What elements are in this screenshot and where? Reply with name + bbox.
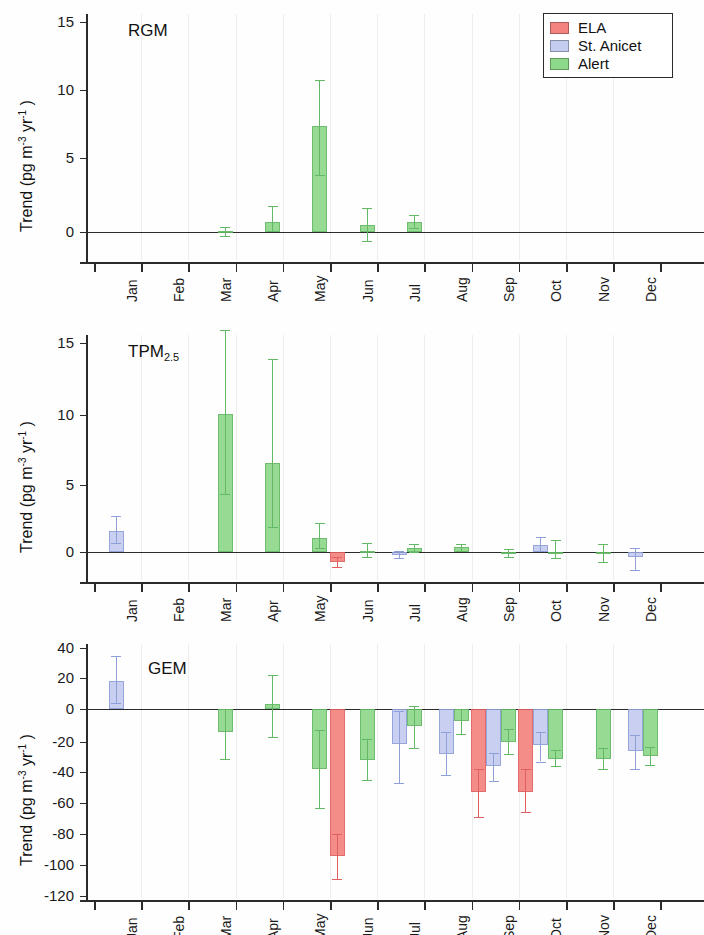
x-tick-label-sep: Sep <box>502 277 516 302</box>
legend-item-ELA[interactable]: ELA <box>550 19 664 36</box>
error-bar-cap <box>504 754 514 755</box>
error-bar-line <box>555 750 556 767</box>
x-tick <box>660 263 662 272</box>
bar-StAnicet-Sep <box>486 709 501 766</box>
legend-label: ELA <box>578 20 606 35</box>
chart-panel-GEM: -120-100-80-60-40-2002040JanFebMarAprMay… <box>0 0 704 935</box>
bar-Alert-Sep <box>501 709 516 742</box>
legend-item-Alert[interactable]: Alert <box>550 55 664 72</box>
error-bar-cap <box>551 558 561 559</box>
x-tick-label-may: May <box>313 276 327 302</box>
error-bar-line <box>540 732 541 761</box>
gridline <box>236 14 237 260</box>
chart-panel-RGM: 051015JanFebMarAprMayJunJulAugSepOctNovD… <box>0 0 704 935</box>
error-bar-cap <box>220 236 230 237</box>
bar-StAnicet-Oct <box>533 545 548 552</box>
x-tick-label-feb: Feb <box>172 278 186 302</box>
x-tick <box>330 263 332 272</box>
legend-label: St. Anicet <box>578 38 641 53</box>
bar-Alert-Aug <box>454 547 469 552</box>
bar-Alert-Jun <box>360 225 375 232</box>
x-tick <box>188 901 190 910</box>
error-bar-line <box>272 206 273 230</box>
x-tick-label-nov: Nov <box>597 915 611 935</box>
gridline <box>519 335 520 580</box>
error-bar-line <box>478 769 479 817</box>
zero-baseline <box>86 709 704 711</box>
error-bar-cap <box>504 549 514 550</box>
x-tick-label-nov: Nov <box>597 277 611 302</box>
error-bar-cap <box>536 537 546 538</box>
bar-Alert-Aug <box>454 709 469 721</box>
x-tick <box>519 263 521 272</box>
x-tick <box>613 583 615 592</box>
gridline <box>141 14 142 260</box>
bar-ELA-Jun <box>330 709 345 856</box>
x-tick <box>330 901 332 910</box>
error-bar-cap <box>268 527 278 528</box>
x-tick-label-jul: Jul <box>408 922 422 935</box>
error-bar-cap <box>362 557 372 558</box>
x-tick-label-mar: Mar <box>219 278 233 302</box>
bar-Alert-May <box>312 538 327 552</box>
legend-item-StAnicet[interactable]: St. Anicet <box>550 37 664 54</box>
error-bar-cap <box>332 557 342 558</box>
error-bar-line <box>508 549 509 556</box>
error-bar-cap <box>630 570 640 571</box>
x-tick-label-dec: Dec <box>644 915 658 935</box>
x-tick-label-dec: Dec <box>644 597 658 622</box>
bar-StAnicet-Oct <box>533 709 548 745</box>
error-bar-line <box>116 516 117 542</box>
error-bar-line <box>446 732 447 775</box>
x-tick-label-jun: Jun <box>361 599 375 622</box>
x-tick <box>660 583 662 592</box>
y-tick <box>80 22 87 24</box>
panel-title-TPM25: TPM2.5 <box>128 343 179 363</box>
error-bar-line <box>337 557 338 568</box>
error-bar-cap <box>332 879 342 880</box>
x-tick-label-aug: Aug <box>455 915 469 935</box>
error-bar-cap <box>456 544 466 545</box>
y-tick-label: 10 <box>24 407 74 422</box>
error-bar-cap <box>332 567 342 568</box>
gridline <box>188 14 189 260</box>
legend-swatch-ELA-icon <box>550 22 569 34</box>
error-bar-cap <box>551 766 561 767</box>
gridline <box>377 644 378 898</box>
gridline <box>472 14 473 260</box>
x-tick <box>283 583 285 592</box>
error-bar-cap <box>111 703 121 704</box>
legend: ELASt. AnicetAlert <box>543 13 673 78</box>
x-tick-label-jan: Jan <box>125 599 139 622</box>
bar-Alert-Mar <box>218 709 233 732</box>
y-tick <box>80 552 87 554</box>
y-tick-label: 15 <box>24 14 74 29</box>
y-tick-label: 15 <box>24 335 74 350</box>
y-tick-label: -100 <box>24 857 74 872</box>
x-tick <box>660 901 662 910</box>
bar-Alert-Mar <box>218 231 233 233</box>
bar-ELA-Jun <box>330 552 345 562</box>
error-bar-line <box>525 769 526 812</box>
legend-swatch-StAnicet-icon <box>550 40 569 52</box>
error-bar-cap <box>551 540 561 541</box>
x-tick-label-feb: Feb <box>172 598 186 622</box>
y-axis-label: Trend (pg m-3 yr-1 ) <box>18 421 35 553</box>
error-bar-cap <box>315 523 325 524</box>
y-tick <box>80 896 87 898</box>
error-bar-line <box>225 227 226 236</box>
x-tick-label-apr: Apr <box>266 600 280 622</box>
x-tick <box>236 901 238 910</box>
error-bar-cap <box>409 748 419 749</box>
error-bar-line <box>319 523 320 548</box>
bar-Alert-Apr <box>265 704 280 709</box>
error-bar-cap <box>536 551 546 552</box>
bar-Alert-Jul <box>407 222 422 232</box>
error-bar-cap <box>474 769 484 770</box>
y-axis-line <box>86 14 88 262</box>
error-bar-line <box>367 543 368 557</box>
legend-swatch-Alert-icon <box>550 58 569 70</box>
y-tick <box>80 742 87 744</box>
zero-baseline <box>86 232 704 234</box>
x-tick <box>377 901 379 910</box>
